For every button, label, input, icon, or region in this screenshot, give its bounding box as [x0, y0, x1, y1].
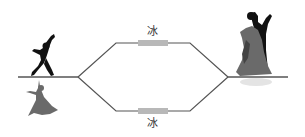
interference-diagram: 冰 冰	[0, 0, 305, 137]
upper-path-line-right	[168, 43, 228, 77]
lower-path-line	[78, 77, 138, 111]
dancing-couple-figure	[236, 12, 272, 86]
male-dancer-figure	[31, 34, 55, 76]
female-dancer-figure	[26, 80, 58, 116]
lower-path-line-right	[168, 77, 228, 111]
bottom-ice-label: 冰	[147, 118, 158, 130]
bottom-ice-block	[138, 108, 168, 114]
upper-path-line	[78, 43, 138, 77]
top-ice-label: 冰	[147, 26, 158, 38]
top-ice-block	[138, 40, 168, 46]
